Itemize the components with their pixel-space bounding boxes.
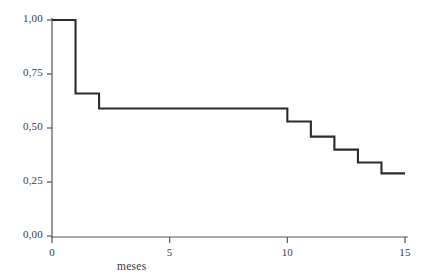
x-axis-tick-label: 5 xyxy=(155,246,185,258)
x-axis-ticks xyxy=(52,237,405,243)
x-axis-tick-label: 15 xyxy=(390,246,420,258)
chart-plot-area xyxy=(0,0,431,280)
y-axis-tick-label: 0,75 xyxy=(13,66,43,78)
y-axis-tick-label: 0,25 xyxy=(13,174,43,186)
y-axis-tick-label: 1,00 xyxy=(13,12,43,24)
x-axis-tick-label: 10 xyxy=(272,246,302,258)
y-axis-tick-label: 0,00 xyxy=(13,228,43,240)
x-axis-title: meses xyxy=(0,260,264,272)
x-axis-tick-label: 0 xyxy=(37,246,67,258)
survival-step-curve xyxy=(52,20,405,173)
kaplan-meier-chart: 0,000,250,500,751,00 051015 meses xyxy=(0,0,431,280)
y-axis-tick-label: 0,50 xyxy=(13,120,43,132)
y-axis-ticks xyxy=(47,20,52,236)
